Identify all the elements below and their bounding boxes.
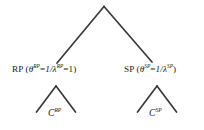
tree-diagram: RP (θRP=1/λRP=1) SP (θSP=1/λSP) CRP CSP	[0, 0, 204, 130]
node-rp-close-paren: )	[73, 64, 76, 74]
branch-root-to-rp	[57, 7, 104, 64]
node-rp-prefix: RP	[12, 64, 23, 74]
leaf-c-sp-superscript: SP	[155, 107, 161, 113]
leaf-c-rp-superscript: RP	[54, 107, 61, 113]
branch-root-to-sp	[104, 7, 152, 63]
node-label-sp: SP (θSP=1/λSP)	[124, 64, 176, 74]
leaf-label-c-sp: CSP	[149, 108, 162, 118]
node-sp-one-over: 1/	[156, 64, 163, 74]
leaf-label-c-rp: CRP	[48, 108, 61, 118]
node-rp-theta-superscript: RP	[33, 63, 40, 69]
node-label-rp: RP (θRP=1/λRP=1)	[12, 64, 76, 74]
node-sp-prefix: SP	[124, 64, 134, 74]
node-rp-equals-second: =1	[63, 64, 73, 74]
node-rp-one-over: 1/	[45, 64, 52, 74]
node-sp-close-paren: )	[173, 64, 176, 74]
